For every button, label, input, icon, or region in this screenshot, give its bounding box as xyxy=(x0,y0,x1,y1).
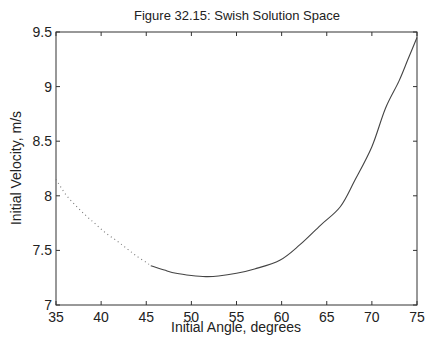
chart: Figure 32.15: Swish Solution Space 35404… xyxy=(0,0,438,353)
y-tick-label: 9 xyxy=(44,79,52,95)
y-tick-label: 7 xyxy=(44,297,52,313)
y-tick-label: 8.5 xyxy=(33,133,53,149)
x-axis-label: Initial Angle, degrees xyxy=(171,319,301,335)
chart-title: Figure 32.15: Swish Solution Space xyxy=(134,8,340,23)
y-tick-label: 7.5 xyxy=(33,242,53,258)
x-tick-label: 75 xyxy=(409,309,425,325)
y-tick-label: 9.5 xyxy=(33,24,53,40)
figure-background xyxy=(0,0,438,353)
x-tick-label: 70 xyxy=(364,309,380,325)
y-axis-label: Initial Velocity, m/s xyxy=(8,111,24,225)
x-tick-label: 45 xyxy=(138,309,154,325)
x-tick-label: 65 xyxy=(319,309,335,325)
x-tick-label: 40 xyxy=(93,309,109,325)
y-tick-label: 8 xyxy=(44,188,52,204)
